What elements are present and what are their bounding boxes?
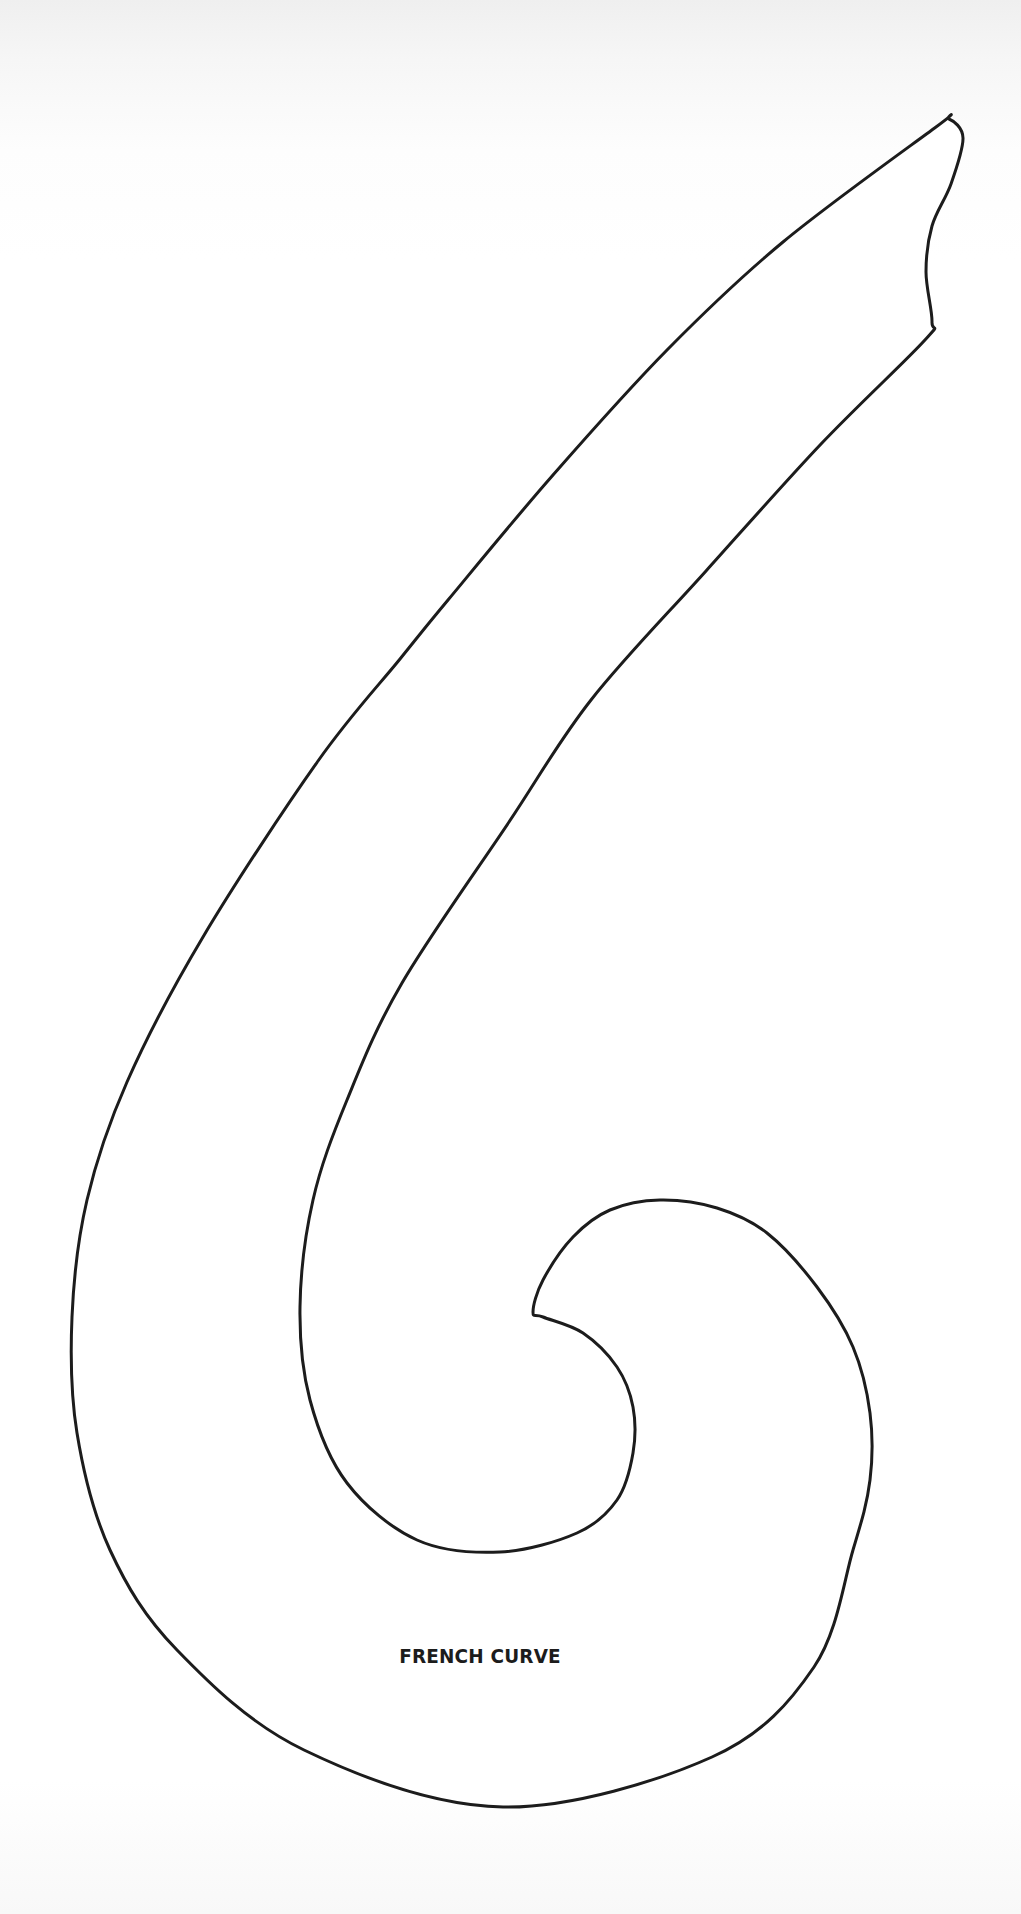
figure-title-label: FRENCH CURVE: [386, 1644, 574, 1668]
french-curve-shape: [71, 115, 963, 1807]
french-curve-outline: [0, 0, 1021, 1914]
